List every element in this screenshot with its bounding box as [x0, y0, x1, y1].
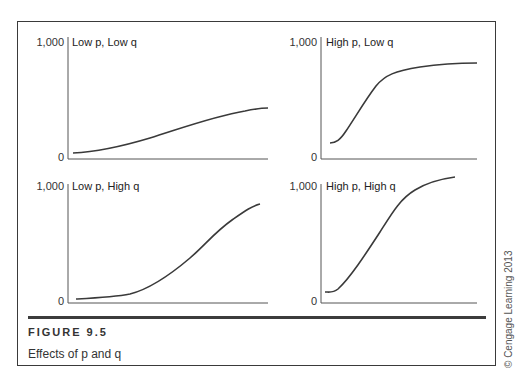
- curve: [76, 204, 260, 299]
- ytick-min: 0: [24, 295, 64, 307]
- panel-title: High p, High q: [326, 180, 396, 192]
- ytick-min: 0: [24, 151, 64, 163]
- figure-caption: Effects of p and q: [28, 347, 121, 361]
- ytick-max: 1,000: [24, 180, 64, 192]
- panel-high-p-high-q: [321, 177, 477, 303]
- ytick-min: 0: [277, 295, 317, 307]
- panel-title: Low p, Low q: [72, 36, 137, 48]
- panel-high-p-low-q: [321, 37, 477, 159]
- figure-label: FIGURE 9.5: [28, 326, 108, 338]
- panel-title: High p, Low q: [326, 36, 393, 48]
- curve: [325, 177, 455, 292]
- copyright-notice: © Cengage Learning 2013: [503, 251, 514, 368]
- panel-low-p-low-q: [68, 37, 268, 159]
- ytick-min: 0: [277, 151, 317, 163]
- ytick-max: 1,000: [24, 36, 64, 48]
- panel-title: Low p, High q: [72, 180, 139, 192]
- ytick-max: 1,000: [277, 36, 317, 48]
- caption-divider: [28, 316, 486, 319]
- ytick-max: 1,000: [277, 180, 317, 192]
- curve: [330, 63, 477, 143]
- curve: [73, 108, 268, 153]
- panel-low-p-high-q: [68, 184, 268, 303]
